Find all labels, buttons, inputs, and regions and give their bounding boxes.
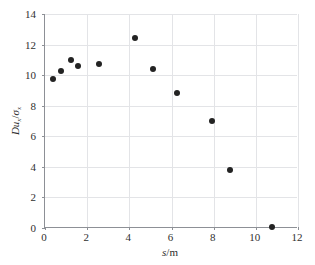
data-point: [132, 35, 138, 41]
x-gridline: [256, 14, 257, 227]
x-gridline: [298, 14, 299, 227]
y-axis-tick: [42, 106, 45, 107]
x-axis-title: s/m: [162, 246, 178, 258]
x-axis-tick: [256, 227, 257, 230]
y-axis-tick-label: 8: [36, 100, 42, 111]
data-point: [209, 118, 215, 124]
x-gridline: [172, 14, 173, 227]
x-axis-tick: [298, 227, 299, 230]
x-axis-tick-label: 0: [41, 232, 47, 243]
data-point: [150, 66, 156, 72]
data-point: [68, 57, 74, 63]
plot-area: [44, 14, 297, 228]
y-axis-title-D: D: [9, 127, 21, 135]
y-axis-tick-label: 0: [36, 223, 42, 234]
x-axis-title-unit: m: [169, 246, 178, 258]
scatter-chart-figure: Dux/σx s/m 02468101202468101214: [0, 0, 315, 265]
data-point: [227, 167, 233, 173]
data-point: [174, 90, 180, 96]
y-gridline: [45, 197, 297, 198]
y-axis-tick: [42, 136, 45, 137]
y-axis-tick-label: 6: [36, 131, 42, 142]
x-axis-tick-label: 2: [83, 232, 89, 243]
x-axis-tick: [129, 227, 130, 230]
x-axis-tick: [45, 227, 46, 230]
y-axis-tick: [42, 167, 45, 168]
y-axis-tick-label: 14: [36, 9, 47, 20]
x-gridline: [129, 14, 130, 227]
data-point: [50, 76, 56, 82]
x-axis-tick: [214, 227, 215, 230]
x-axis-tick: [172, 227, 173, 230]
y-gridline: [45, 167, 297, 168]
y-axis-tick-label: 10: [36, 70, 47, 81]
y-gridline: [45, 45, 297, 46]
data-point: [269, 224, 275, 230]
data-point: [75, 63, 81, 69]
x-axis-tick-label: 6: [168, 232, 174, 243]
x-axis-tick-label: 8: [210, 232, 216, 243]
y-axis-title-sigma: σ: [9, 110, 21, 115]
y-axis-tick: [42, 228, 45, 229]
x-axis-tick-label: 12: [292, 232, 303, 243]
y-gridline: [45, 75, 297, 76]
x-axis-tick: [87, 227, 88, 230]
x-gridline: [87, 14, 88, 227]
y-axis-title: Dux/σx: [2, 114, 28, 128]
y-gridline: [45, 106, 297, 107]
y-axis-tick-label: 2: [36, 192, 42, 203]
y-axis-tick-label: 4: [36, 161, 42, 172]
y-axis-tick: [42, 197, 45, 198]
x-axis-tick-label: 10: [249, 232, 260, 243]
y-gridline: [45, 136, 297, 137]
data-point: [58, 68, 64, 74]
y-axis-title-u: u: [9, 122, 21, 128]
data-point: [96, 61, 102, 67]
y-axis-tick-label: 12: [36, 39, 47, 50]
x-axis-tick-label: 4: [126, 232, 132, 243]
y-axis-title-sigma-sub: x: [15, 107, 23, 110]
y-gridline: [45, 14, 297, 15]
y-axis-title-u-sub: x: [15, 119, 23, 122]
